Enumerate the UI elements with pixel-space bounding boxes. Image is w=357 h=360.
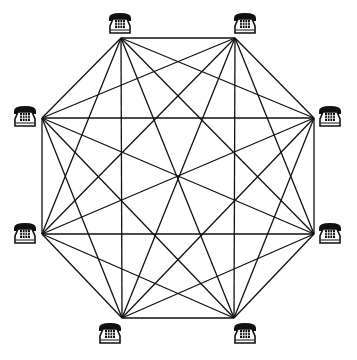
telephone-icon (234, 13, 256, 33)
telephone-icon (14, 106, 36, 126)
connection-line (42, 234, 122, 318)
connection-line (42, 38, 235, 118)
connection-line (42, 38, 121, 118)
connection-line (234, 234, 314, 318)
connection-lines (42, 38, 314, 318)
telephone-icon (14, 223, 36, 243)
connection-line (122, 118, 314, 318)
complete-graph-diagram (0, 0, 357, 360)
connection-line (121, 38, 122, 318)
connection-line (42, 118, 122, 318)
connection-line (42, 118, 234, 318)
connection-line (235, 38, 314, 234)
telephone-icon (109, 13, 131, 33)
connection-line (121, 38, 314, 234)
connection-line (234, 118, 314, 318)
telephone-icon (319, 106, 341, 126)
connection-line (42, 38, 235, 234)
connection-line (121, 38, 314, 118)
connection-line (234, 38, 235, 318)
telephone-icon (319, 223, 341, 243)
telephone-icon (234, 323, 256, 343)
telephone-icon (99, 323, 121, 343)
connection-line (235, 38, 314, 118)
connection-line (42, 38, 121, 234)
